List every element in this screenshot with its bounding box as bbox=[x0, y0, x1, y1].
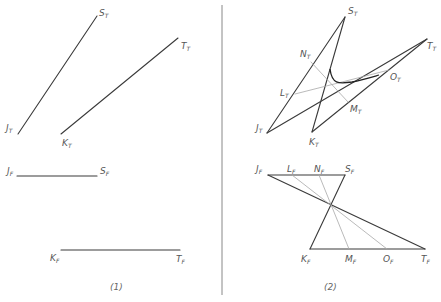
panel-2-top-label-mt: MT bbox=[350, 104, 363, 115]
panel-2-front-line-jf-tf bbox=[268, 175, 425, 249]
panel-1-front-label-tf: TF bbox=[176, 254, 186, 265]
panel-2-front-label-mf: MF bbox=[345, 254, 357, 265]
panel-1-top-view bbox=[18, 16, 178, 134]
panel-1-top-label-st: ST bbox=[99, 8, 110, 19]
panel-1-front-label-jf: JF bbox=[5, 166, 14, 177]
panel-1-given-views: STTTJTKTJFSFKFTF (1) bbox=[4, 8, 192, 292]
panel-1-front-label-kf: KF bbox=[50, 253, 60, 264]
panel-1-front-label-sf: SF bbox=[100, 166, 110, 177]
panel-2-top-label-lt: LT bbox=[280, 88, 290, 99]
panel-2-top-label-jt: JT bbox=[254, 123, 264, 134]
panel-2-front-line-nf-mf bbox=[319, 175, 349, 249]
panel-2-top-line-jt-st bbox=[267, 17, 345, 133]
panel-2-top-line-jt-tt bbox=[267, 39, 427, 133]
panel-1-top-label-jt: JT bbox=[4, 123, 14, 134]
panel-1-point-labels: STTTJTKTJFSFKFTF bbox=[4, 8, 192, 265]
panel-2-front-label-lf: LF bbox=[287, 164, 296, 175]
panel-2-front-label-jf: JF bbox=[254, 164, 263, 175]
panel-1-caption: (1) bbox=[110, 282, 123, 292]
panel-2-front-label-sf: SF bbox=[345, 164, 355, 175]
panel-2-top-line-kt-st bbox=[312, 17, 345, 132]
panel-1-top-label-kt: KT bbox=[62, 138, 73, 149]
panel-2-front-label-nf: NF bbox=[314, 164, 325, 175]
panel-1-top-label-tt: TT bbox=[181, 41, 192, 52]
panel-2-point-labels: STTTNTOTLTMTJTKTJFLFNFSFKFMFOFTF bbox=[254, 6, 438, 265]
panel-1-top-line-jt-st bbox=[18, 16, 97, 134]
panel-1-front-view bbox=[17, 176, 180, 250]
panel-2-front-label-tf: TF bbox=[421, 254, 431, 265]
panel-2-front-view bbox=[268, 175, 425, 249]
panel-2-top-label-nt: NT bbox=[300, 49, 312, 60]
panel-2-top-label-tt: TT bbox=[427, 41, 438, 52]
panel-2-front-label-kf: KF bbox=[301, 254, 311, 265]
panel-2-top-label-st: ST bbox=[348, 6, 359, 17]
descriptive-geometry-figure: STTTJTKTJFSFKFTF (1) STTTNTOTLTMTJTKTJFL… bbox=[0, 0, 441, 302]
panel-2-front-label-of: OF bbox=[383, 254, 394, 265]
panel-2-top-label-ot: OT bbox=[390, 72, 402, 83]
panel-2-top-label-kt: KT bbox=[309, 137, 320, 148]
panel-2-caption: (2) bbox=[324, 282, 337, 292]
panel-1-top-line-kt-tt bbox=[61, 38, 178, 134]
panel-2-top-view bbox=[267, 17, 427, 133]
panel-2-top-line-lt-ot bbox=[295, 70, 389, 94]
panel-2-solution-views: STTTNTOTLTMTJTKTJFLFNFSFKFMFOFTF (2) bbox=[254, 6, 438, 292]
